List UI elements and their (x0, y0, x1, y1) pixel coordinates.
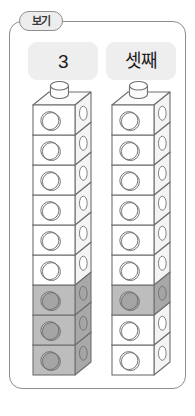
label-text-cardinal: 3 (58, 52, 68, 71)
label-box-ordinal: 셋째 (106, 42, 176, 80)
label-text-ordinal: 셋째 (125, 52, 158, 70)
label-row: 3 셋째 (9, 42, 186, 82)
example-tab-label: 보기 (32, 16, 51, 27)
example-tab-badge: 보기 (19, 11, 63, 31)
label-box-cardinal: 3 (28, 42, 98, 80)
